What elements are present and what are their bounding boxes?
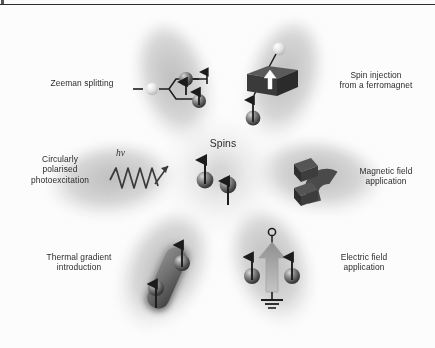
label-circular-polarisation: Circularly polarised photoexcitation: [8, 154, 112, 185]
zeeman-source-sphere: [146, 83, 158, 95]
spin-manipulation-figure: Zeeman splitting Spin injection from a f…: [0, 0, 435, 348]
label-electric-field: Electric field application: [318, 252, 410, 273]
injected-light-sphere: [273, 43, 286, 56]
label-magnetic-field: Magnetic field application: [340, 166, 432, 187]
label-thermal-gradient: Thermal gradient introduction: [22, 252, 136, 273]
photon-energy-label: hv: [116, 148, 125, 158]
label-spin-injection: Spin injection from a ferromagnet: [320, 70, 432, 91]
label-zeeman-splitting: Zeeman splitting: [30, 78, 134, 88]
label-spins-center: Spins: [188, 139, 258, 149]
